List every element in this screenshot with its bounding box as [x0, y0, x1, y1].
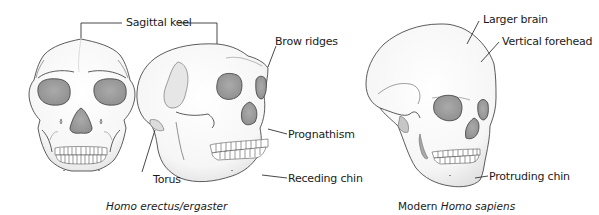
erectus-front-skull — [29, 39, 135, 171]
sapiens-orbit-2 — [478, 100, 489, 121]
label-larger-brain: Larger brain — [483, 13, 548, 26]
caption-erectus: Homo erectus/ergaster — [106, 200, 227, 213]
right-orbit — [94, 79, 126, 105]
label-torus: Torus — [153, 173, 181, 186]
label-vertical-forehead: Vertical forehead — [502, 35, 592, 48]
erectus-side-skull — [137, 44, 268, 182]
erectus-front-teeth — [55, 147, 107, 165]
label-sagittal-keel: Sagittal keel — [126, 16, 192, 29]
sapiens-skull — [366, 24, 496, 187]
caption-sapiens-species: Homo sapiens — [441, 200, 515, 212]
label-brow-ridges: Brow ridges — [275, 35, 338, 48]
left-orbit — [38, 79, 70, 105]
sapiens-orbit-1 — [434, 95, 462, 121]
caption-erectus-species: Homo erectus/ergaster — [106, 200, 227, 212]
caption-sapiens-prefix: Modern — [398, 200, 441, 212]
side-orbit-1 — [217, 73, 242, 99]
caption-sapiens: Modern Homo sapiens — [398, 200, 515, 213]
label-prognathism: Prognathism — [288, 128, 355, 141]
side-orbit-2 — [256, 76, 267, 99]
label-receding-chin: Receding chin — [288, 172, 363, 185]
label-protruding-chin: Protruding chin — [489, 170, 570, 183]
sapiens-teeth — [432, 149, 480, 164]
